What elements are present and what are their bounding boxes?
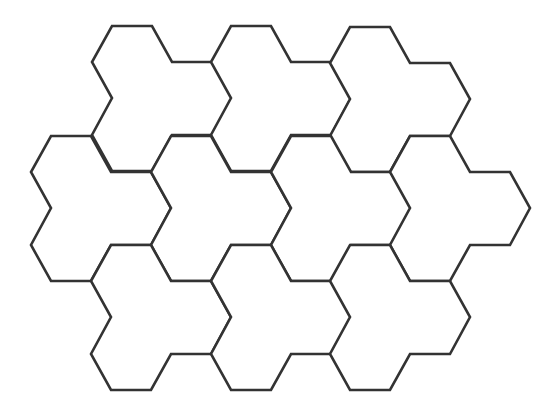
tri-hex-tile [390,136,530,281]
tile-group [31,26,530,390]
tessellation-diagram [0,0,551,416]
